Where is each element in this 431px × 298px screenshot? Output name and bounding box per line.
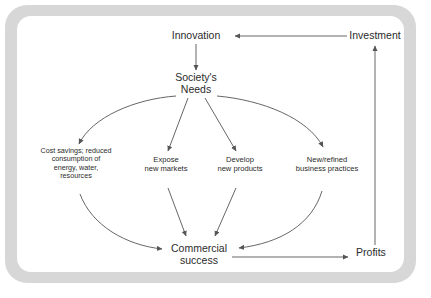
- node-investment: Investment: [325, 29, 425, 41]
- node-develop-new-products: Develop new products: [200, 156, 280, 174]
- edge-develop-products-to-commercial: [215, 188, 236, 236]
- edge-business-practices-to-commercial: [239, 191, 322, 248]
- edge-needs-to-cost-savings: [79, 96, 176, 144]
- node-expose-new-markets: Expose new markets: [126, 156, 206, 174]
- edge-needs-to-expose-markets: [168, 98, 188, 151]
- figure-root: Innovation Investment Society's Needs Co…: [0, 0, 431, 298]
- node-cost-savings: Cost savings; reduced consumption of ene…: [21, 147, 131, 181]
- edge-needs-to-business-practices: [217, 96, 323, 147]
- node-new-refined-business-practices: New/refined business practices: [277, 156, 377, 174]
- edge-needs-to-develop-products: [205, 98, 236, 151]
- edge-expose-markets-to-commercial: [168, 188, 186, 236]
- node-societys-needs: Society's Needs: [146, 71, 246, 96]
- node-profits: Profits: [331, 246, 411, 258]
- node-commercial-success: Commercial success: [149, 242, 249, 267]
- edge-cost-savings-to-commercial: [80, 194, 162, 249]
- node-innovation: Innovation: [146, 29, 246, 41]
